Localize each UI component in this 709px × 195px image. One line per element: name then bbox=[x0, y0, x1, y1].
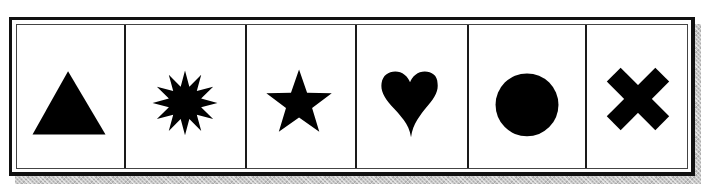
starburst-icon bbox=[126, 25, 245, 168]
symbol-cell-triangle[interactable]: Triangle bbox=[17, 25, 125, 168]
symbol-cell-circle[interactable]: Circle bbox=[467, 25, 586, 168]
star-icon bbox=[247, 25, 356, 168]
triangle-icon bbox=[17, 25, 125, 168]
symbol-panel: Triangle Starburst Star Heart bbox=[9, 17, 695, 176]
symbol-cell-heart[interactable]: Heart bbox=[355, 25, 468, 168]
symbol-cell-cross[interactable]: Cross bbox=[585, 25, 688, 168]
symbol-grid: Triangle Starburst Star Heart bbox=[16, 24, 688, 169]
cross-icon bbox=[587, 25, 688, 168]
heart-icon bbox=[357, 25, 468, 168]
symbol-cell-starburst[interactable]: Starburst bbox=[124, 25, 245, 168]
symbol-cell-star[interactable]: Star bbox=[245, 25, 356, 168]
circle-icon bbox=[469, 25, 586, 168]
